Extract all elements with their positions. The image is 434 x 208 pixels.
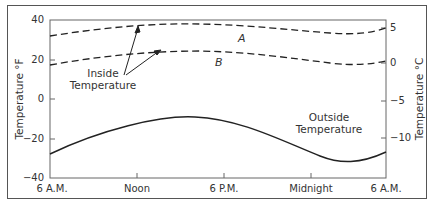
outside-temperature-label-line1: Outside xyxy=(309,111,350,123)
y-left-tick-20: 20 xyxy=(31,54,44,65)
y-left-axis-title: Temperature °F xyxy=(13,58,25,140)
y-left-tick-40: 40 xyxy=(31,14,44,25)
y-left-tick-0: 0 xyxy=(38,93,44,104)
series-a-line xyxy=(50,24,386,36)
left-y-axis xyxy=(50,60,55,139)
outside-temperature-label-line2: Temperature xyxy=(295,123,363,135)
x-tick-noon: Noon xyxy=(124,183,150,194)
series-b-label: B xyxy=(215,56,223,69)
y-right-tick-neg10: −10 xyxy=(390,132,411,143)
y-left-tick-neg20: −20 xyxy=(23,133,44,144)
inside-temperature-label-line2: Temperature xyxy=(69,79,137,91)
inside-temperature-arrows xyxy=(124,26,161,75)
x-tick-6pm: 6 P.M. xyxy=(210,183,239,194)
y-right-tick-neg5: −5 xyxy=(390,95,405,106)
y-left-tick-neg40: −40 xyxy=(23,172,44,183)
y-right-axis-title: Temperature °C xyxy=(413,58,425,141)
x-tick-midnight: Midnight xyxy=(289,183,333,194)
x-axis xyxy=(137,173,311,178)
temperature-chart: 40 20 0 −20 −40 5 0 −5 −10 6 A.M. Noon 6… xyxy=(0,0,434,208)
y-right-tick-5: 5 xyxy=(390,22,396,33)
series-a-label: A xyxy=(237,32,246,45)
x-tick-6am-start: 6 A.M. xyxy=(36,183,67,194)
right-y-axis xyxy=(381,28,386,138)
x-tick-6am-end: 6 A.M. xyxy=(370,183,401,194)
inside-temperature-label-line1: Inside xyxy=(87,67,118,79)
y-right-tick-0: 0 xyxy=(390,57,396,68)
plot-area xyxy=(50,20,386,178)
